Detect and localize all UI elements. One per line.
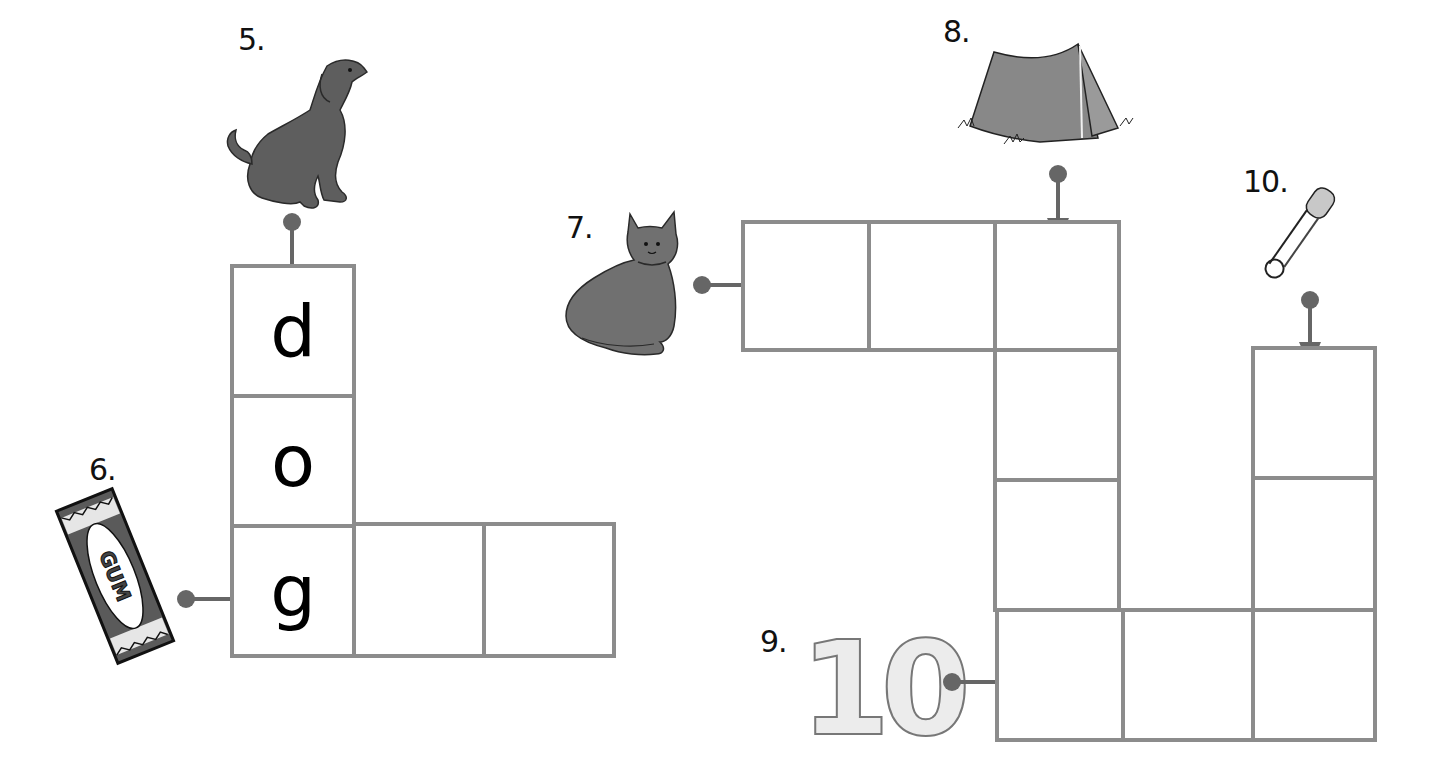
svg-text:10: 10 bbox=[800, 613, 965, 765]
cell-letter: d bbox=[270, 295, 316, 367]
cat-icon bbox=[562, 208, 692, 358]
safety-pin-icon bbox=[1262, 178, 1332, 288]
tent-icon bbox=[952, 40, 1142, 155]
grid-cell-9-2[interactable] bbox=[1121, 608, 1255, 742]
grid-cell-8-2[interactable] bbox=[993, 348, 1121, 482]
grid-cell-10-2[interactable] bbox=[1251, 476, 1377, 612]
cell-letter: o bbox=[271, 425, 315, 497]
grid-cell-5-3-6-1[interactable]: g bbox=[230, 524, 356, 658]
grid-cell-5-2[interactable]: o bbox=[230, 394, 356, 528]
clue-number-9: 9. bbox=[760, 624, 787, 659]
grid-cell-10-1[interactable] bbox=[1251, 346, 1377, 480]
number-ten-icon: 10 bbox=[800, 622, 930, 742]
grid-cell-6-2[interactable] bbox=[352, 522, 486, 658]
grid-cell-5-1[interactable]: d bbox=[230, 264, 356, 398]
gum-icon: GUM bbox=[60, 488, 170, 663]
clue-number-6: 6. bbox=[89, 452, 116, 487]
cell-letter: g bbox=[270, 555, 316, 627]
grid-cell-7-1[interactable] bbox=[741, 220, 871, 352]
dog-icon bbox=[222, 52, 372, 217]
grid-cell-6-3[interactable] bbox=[482, 522, 616, 658]
grid-cell-9-3-10-3[interactable] bbox=[1251, 608, 1377, 742]
grid-cell-8-4-9-1[interactable] bbox=[995, 608, 1125, 742]
grid-cell-7-2[interactable] bbox=[867, 220, 997, 352]
grid-cell-7-3-8-1[interactable] bbox=[993, 220, 1121, 352]
grid-cell-8-3[interactable] bbox=[993, 478, 1121, 612]
